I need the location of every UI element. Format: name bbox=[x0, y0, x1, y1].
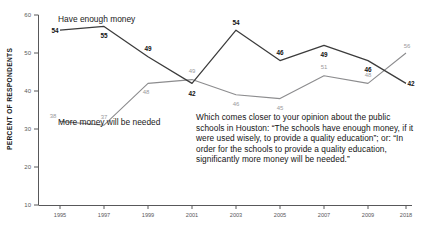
data-label-gray-2009: 48 bbox=[365, 72, 372, 78]
y-tick-label-50: 50 bbox=[24, 50, 31, 56]
series-label-more-money: More money will be needed bbox=[58, 117, 161, 127]
x-tick-label-2001: 2001 bbox=[186, 212, 198, 218]
y-axis-ticks: 60 50 40 30 20 10 bbox=[24, 12, 38, 208]
data-label-dark-2018: 42 bbox=[407, 80, 415, 87]
data-label-dark-2001: 42 bbox=[188, 90, 196, 97]
data-label-dark-1995: 54 bbox=[51, 27, 59, 34]
question-annotation: Which comes closer to your opinion about… bbox=[196, 112, 418, 165]
y-tick-label-30: 30 bbox=[24, 126, 31, 132]
data-label-gray-1999: 48 bbox=[143, 89, 150, 95]
y-tick-label-20: 20 bbox=[24, 164, 31, 170]
x-tick-label-1997: 1997 bbox=[98, 212, 110, 218]
x-tick-label-2003: 2003 bbox=[230, 212, 242, 218]
data-label-dark-2003: 54 bbox=[232, 19, 240, 26]
data-label-dark-2005: 46 bbox=[276, 49, 284, 56]
data-label-gray-1995: 38 bbox=[50, 113, 57, 119]
x-tick-label-2005: 2005 bbox=[274, 212, 286, 218]
x-tick-label-2009: 2009 bbox=[362, 212, 374, 218]
data-label-gray-2003: 46 bbox=[233, 101, 240, 107]
x-tick-label-2007: 2007 bbox=[318, 212, 330, 218]
data-label-dark-1997: 55 bbox=[100, 32, 108, 39]
data-label-gray-2001: 49 bbox=[189, 68, 196, 74]
data-label-gray-2018: 56 bbox=[404, 43, 411, 49]
x-tick-label-1995: 1995 bbox=[54, 212, 66, 218]
data-label-dark-2007: 49 bbox=[320, 51, 328, 58]
x-tick-label-1999: 1999 bbox=[142, 212, 154, 218]
y-tick-label-60: 60 bbox=[24, 12, 31, 18]
y-tick-label-10: 10 bbox=[24, 202, 31, 208]
y-tick-label-40: 40 bbox=[24, 88, 31, 94]
chart-figure: 60 50 40 30 20 10 1995 1997 1999 2001 20… bbox=[0, 0, 423, 237]
series-label-have-enough: Have enough money bbox=[58, 14, 136, 24]
data-label-gray-2005: 45 bbox=[277, 105, 284, 111]
data-label-dark-1999: 49 bbox=[144, 45, 152, 52]
x-axis-ticks: 1995 1997 1999 2001 2003 2005 2007 2009 … bbox=[54, 206, 412, 219]
y-axis-title: PERCENT OF RESPONDENTS bbox=[6, 48, 13, 150]
data-label-gray-2007: 51 bbox=[321, 64, 328, 70]
series-line-have-enough bbox=[60, 26, 406, 83]
x-tick-label-2018: 2018 bbox=[400, 212, 412, 218]
